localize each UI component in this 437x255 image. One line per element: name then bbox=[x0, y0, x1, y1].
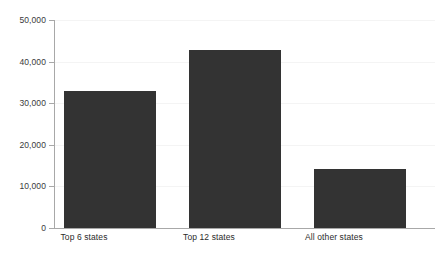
y-tick-mark bbox=[49, 145, 54, 146]
bar-chart-figure: 50,000 40,000 30,000 20,000 10,000 0 Top… bbox=[0, 0, 437, 255]
bar-top-12-states bbox=[189, 50, 281, 228]
y-axis-tick-labels: 50,000 40,000 30,000 20,000 10,000 0 bbox=[0, 0, 46, 255]
y-tick-mark bbox=[49, 103, 54, 104]
x-tick-label-top-6-states: Top 6 states bbox=[14, 233, 154, 242]
x-tick-label-all-other-states: All other states bbox=[264, 233, 404, 242]
y-tick-label-40000: 40,000 bbox=[2, 58, 46, 67]
y-tick-label-50000: 50,000 bbox=[2, 16, 46, 25]
x-axis-line bbox=[54, 228, 435, 229]
y-tick-label-10000: 10,000 bbox=[2, 182, 46, 191]
y-tick-label-0: 0 bbox=[2, 224, 46, 233]
bar-all-other-states bbox=[314, 169, 406, 228]
bar-top-6-states bbox=[64, 91, 156, 228]
y-tick-mark bbox=[49, 20, 54, 21]
bars-layer bbox=[54, 20, 435, 228]
y-tick-mark bbox=[49, 186, 54, 187]
x-tick-label-top-12-states: Top 12 states bbox=[139, 233, 279, 242]
y-tick-mark bbox=[49, 228, 54, 229]
y-tick-label-20000: 20,000 bbox=[2, 141, 46, 150]
y-tick-label-30000: 30,000 bbox=[2, 99, 46, 108]
y-axis-line bbox=[54, 20, 55, 228]
y-tick-mark bbox=[49, 62, 54, 63]
